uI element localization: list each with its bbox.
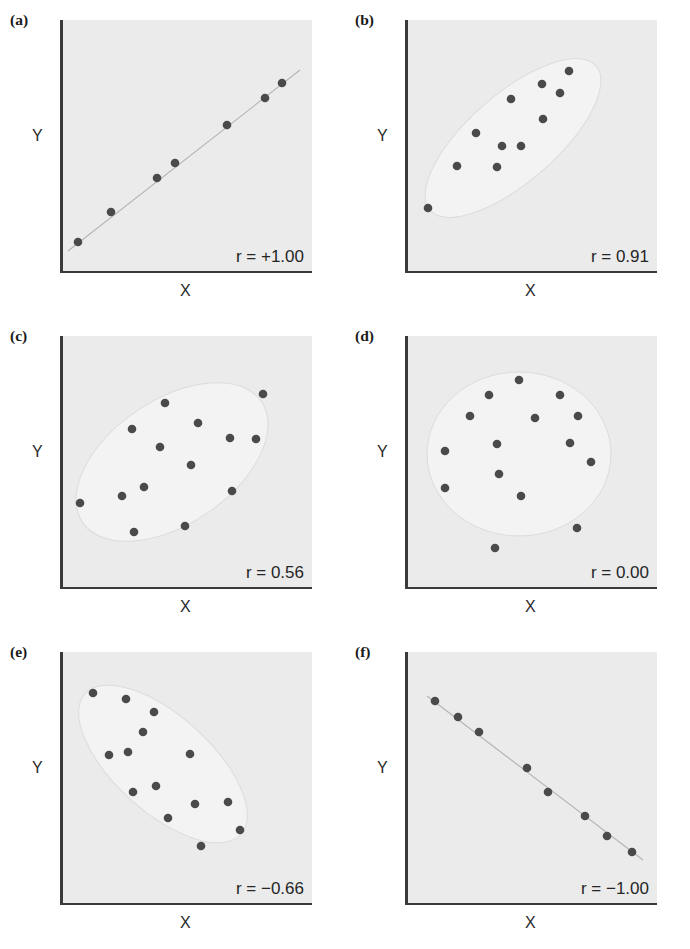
data-point (472, 129, 481, 138)
panel-c-x-axis-line (60, 587, 312, 590)
data-point (236, 826, 245, 835)
data-point (139, 728, 148, 737)
data-point (187, 461, 196, 470)
panel-f-y-axis-line (405, 652, 408, 905)
data-point (191, 800, 200, 809)
data-point (495, 470, 504, 479)
data-point (475, 728, 484, 737)
panel-d-x-axis-line (405, 587, 657, 590)
data-point (566, 439, 575, 448)
panel-e-x-axis-label: X (180, 915, 191, 931)
data-point (164, 814, 173, 823)
data-cloud-ellipse (427, 372, 611, 536)
panel-a-y-axis-line (60, 20, 63, 273)
data-point (424, 204, 433, 213)
data-point (89, 689, 98, 698)
data-point (587, 458, 596, 467)
data-point (454, 713, 463, 722)
data-point (124, 748, 133, 757)
data-point (259, 390, 268, 399)
data-point (140, 483, 149, 492)
data-point (156, 443, 165, 452)
panel-a: (a) Y r = +1.00 X (0, 0, 345, 316)
data-point (128, 425, 137, 434)
data-point (197, 842, 206, 851)
panel-e-tag: (e) (10, 644, 27, 660)
data-point (105, 751, 114, 760)
panel-f: (f) Y r = −1.00 X (345, 632, 690, 948)
data-point (581, 812, 590, 821)
panel-f-y-axis-label: Y (377, 760, 388, 776)
panel-e-y-axis-label: Y (32, 760, 43, 776)
data-cloud-ellipse (60, 350, 296, 574)
data-point (573, 524, 582, 533)
data-point (539, 115, 548, 124)
data-point (223, 121, 232, 130)
panel-c-y-axis-label: Y (32, 444, 43, 460)
panel-a-x-axis-label: X (180, 283, 191, 299)
data-point (150, 708, 159, 717)
panel-d-y-axis-line (405, 336, 408, 589)
data-point (574, 412, 583, 421)
data-point (565, 67, 574, 76)
panel-c-scatter (60, 336, 312, 589)
data-point (556, 89, 565, 98)
data-point (628, 848, 637, 857)
data-point (493, 163, 502, 172)
panel-b-y-axis-line (405, 20, 408, 273)
panel-b-x-axis-line (405, 271, 657, 274)
panel-b: (b) Y r = 0.91 X (345, 0, 690, 316)
panel-a-scatter (60, 20, 312, 273)
panel-f-tag: (f) (355, 644, 371, 660)
panel-f-x-axis-line (405, 903, 657, 906)
data-point (493, 440, 502, 449)
data-point (171, 159, 180, 168)
data-point (515, 376, 524, 385)
data-point (153, 174, 162, 183)
panel-a-r-annotation: r = +1.00 (236, 248, 304, 265)
panel-d-scatter (405, 336, 657, 589)
data-cloud-ellipse (405, 33, 625, 244)
panel-e-x-axis-line (60, 903, 312, 906)
panel-a-y-axis-label: Y (32, 128, 43, 144)
data-point (194, 419, 203, 428)
data-point (507, 95, 516, 104)
data-point (186, 750, 195, 759)
panel-b-plot-area: r = 0.91 (405, 20, 657, 273)
panel-c-tag: (c) (10, 328, 27, 344)
data-point (252, 435, 261, 444)
panel-d: (d) Y r = 0.00 X (345, 316, 690, 632)
data-point (224, 798, 233, 807)
data-point (531, 414, 540, 423)
data-point (129, 788, 138, 797)
data-point (441, 484, 450, 493)
data-point (538, 80, 547, 89)
data-point (441, 447, 450, 456)
data-point (76, 499, 85, 508)
panel-f-scatter (405, 652, 657, 905)
panel-c: (c) Y r = 0.56 X (0, 316, 345, 632)
panel-b-tag: (b) (355, 12, 374, 28)
data-point (228, 487, 237, 496)
data-point (556, 391, 565, 400)
data-point (74, 238, 83, 247)
panel-f-x-axis-label: X (525, 915, 536, 931)
data-point (261, 94, 270, 103)
data-point (122, 695, 131, 704)
data-point (603, 832, 612, 841)
data-point (130, 528, 139, 537)
panel-e-y-axis-line (60, 652, 63, 905)
panel-d-x-axis-label: X (525, 599, 536, 615)
panel-e-plot-area: r = −0.66 (60, 652, 312, 905)
panel-d-r-annotation: r = 0.00 (591, 564, 649, 581)
data-point (118, 492, 127, 501)
data-point (544, 788, 553, 797)
panel-d-tag: (d) (355, 328, 374, 344)
data-point (181, 522, 190, 531)
data-point (491, 544, 500, 553)
data-point (152, 782, 161, 791)
panel-c-plot-area: r = 0.56 (60, 336, 312, 589)
panel-a-x-axis-line (60, 271, 312, 274)
panel-e: (e) Y r = −0.66 X (0, 632, 345, 948)
panel-d-y-axis-label: Y (377, 444, 388, 460)
